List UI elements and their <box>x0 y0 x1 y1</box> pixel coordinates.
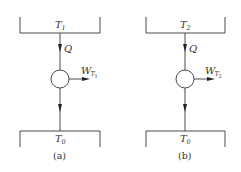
engine-circle <box>51 70 69 88</box>
caption-b: (b) <box>178 150 192 161</box>
cold-reservoir-b: T 0 <box>146 131 225 147</box>
diagram-a: T 1 Q W T 1 T 0 (a) <box>20 17 100 161</box>
work-output-subsubscript: 2 <box>219 73 222 79</box>
heat-flow-a: Q <box>58 33 72 70</box>
arrow-down-icon <box>58 44 62 52</box>
hot-reservoir-subscript: 2 <box>186 24 191 32</box>
heat-engine-diagrams: T 1 Q W T 1 T 0 (a) <box>0 0 241 172</box>
diagram-b: T 2 Q W T 2 T 0 (b) <box>146 17 225 161</box>
hot-reservoir-subscript: 1 <box>62 24 66 32</box>
rejected-heat-b <box>183 88 187 131</box>
arrow-down-icon <box>58 104 62 112</box>
rejected-heat-a <box>58 88 62 131</box>
caption-a: (a) <box>53 150 66 161</box>
arrow-down-icon <box>183 104 187 112</box>
work-output-a: W T 1 <box>69 65 98 81</box>
work-output-subsubscript: 1 <box>95 73 98 79</box>
heat-flow-label: Q <box>189 43 197 54</box>
cold-reservoir-a: T 0 <box>20 131 100 147</box>
cold-reservoir-subscript: 0 <box>187 138 191 146</box>
heat-flow-label: Q <box>64 43 72 54</box>
work-output-b: W T 2 <box>194 65 222 81</box>
arrow-right-icon <box>82 77 90 81</box>
hot-reservoir-a: T 1 <box>20 17 100 33</box>
hot-reservoir-b: T 2 <box>146 17 225 33</box>
arrow-down-icon <box>183 44 187 52</box>
cold-reservoir-subscript: 0 <box>62 138 66 146</box>
heat-flow-b: Q <box>183 33 197 70</box>
engine-circle <box>176 70 194 88</box>
